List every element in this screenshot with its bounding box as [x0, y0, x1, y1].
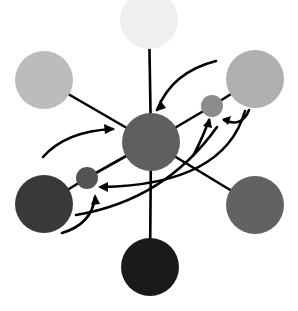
arrow-curve: [43, 129, 113, 157]
node-lower-left: [15, 175, 73, 233]
node-upper-right: [226, 50, 284, 108]
arrow-left-to-center: [43, 124, 115, 157]
node-top: [120, 0, 178, 49]
nodes-layer: [15, 0, 284, 296]
node-small-left: [76, 167, 98, 189]
arrowhead-icon: [91, 194, 100, 205]
network-diagram: [0, 0, 298, 311]
node-upper-left: [15, 51, 73, 109]
arrowhead-icon: [203, 118, 212, 128]
arrowhead-icon: [98, 182, 108, 192]
node-center: [122, 113, 180, 171]
node-small-right: [201, 95, 223, 117]
node-bottom: [121, 238, 179, 296]
node-lower-right: [226, 176, 284, 234]
arrowhead-icon: [104, 124, 115, 134]
